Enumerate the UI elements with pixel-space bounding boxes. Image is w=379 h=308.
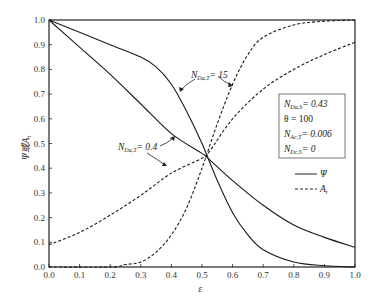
- svg-text:NDa,S= 0.43: NDa,S= 0.43: [283, 99, 328, 110]
- x-tick-label: 0.5: [196, 270, 208, 280]
- svg-text:NDa,T= 0.4: NDa,T= 0.4: [117, 142, 157, 153]
- annotation-ndat-15: NDa,T= 15: [179, 70, 233, 92]
- x-axis-label: ε: [198, 284, 202, 294]
- x-tick-label: 1.0: [349, 270, 361, 280]
- y-tick-label: 0.8: [34, 64, 46, 74]
- arrow-icon: [181, 79, 195, 90]
- x-tick-label: 0.2: [105, 270, 116, 280]
- svg-text:θ = 100: θ = 100: [284, 114, 313, 124]
- line-chart: 0.00.10.20.30.40.50.60.70.80.91.00.00.10…: [0, 0, 379, 308]
- y-tick-label: 0.1: [34, 237, 45, 247]
- parameter-box: NDa,S= 0.43 θ = 100 NAc,T= 0.006 NDc,S= …: [279, 94, 345, 158]
- y-tick-label: 0.3: [34, 188, 46, 198]
- x-tick-label: 0.7: [258, 270, 270, 280]
- y-tick-label: 0.2: [34, 213, 45, 223]
- svg-text:Ψ: Ψ: [320, 169, 328, 179]
- x-tick-label: 0.1: [74, 270, 85, 280]
- svg-text:NAc,T= 0.006: NAc,T= 0.006: [283, 129, 332, 140]
- y-tick-label: 0.5: [34, 139, 46, 149]
- y-tick-label: 0.6: [34, 114, 46, 124]
- arrow-icon: [160, 138, 173, 146]
- arrow-icon: [147, 153, 165, 165]
- x-tick-label: 0.6: [227, 270, 239, 280]
- x-tick-label: 0.0: [43, 270, 55, 280]
- y-tick-label: 0.7: [34, 89, 46, 99]
- x-tick-label: 0.9: [319, 270, 331, 280]
- x-tick-label: 0.4: [166, 270, 178, 280]
- x-tick-label: 0.8: [288, 270, 300, 280]
- y-tick-label: 0.4: [34, 163, 46, 173]
- y-tick-label: 0.9: [34, 40, 46, 50]
- y-tick-label: 1.0: [34, 15, 46, 25]
- y-tick-label: 0.0: [34, 262, 46, 272]
- svg-text:Ψ或At: Ψ或At: [21, 136, 32, 161]
- legend: Ψ At: [295, 169, 328, 195]
- annotation-ndat-0.4: NDa,T= 0.4: [117, 136, 175, 166]
- x-tick-label: 0.3: [135, 270, 147, 280]
- svg-text:At: At: [319, 184, 328, 195]
- y-axis-label: Ψ或At: [21, 136, 32, 161]
